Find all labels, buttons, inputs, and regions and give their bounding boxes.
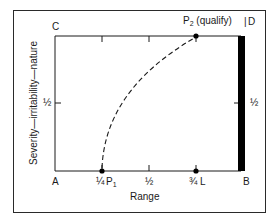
corner-label-a: A <box>52 177 59 187</box>
point-p1-label: P1 <box>106 177 117 190</box>
x-axis-label: Range <box>130 192 159 202</box>
y-tick-right-half: ½ <box>250 98 258 108</box>
x-tick-half: ½ <box>145 177 153 187</box>
dashed-curve <box>102 37 196 168</box>
point-l <box>193 168 198 173</box>
plot-axes <box>55 36 241 171</box>
point-p2 <box>193 33 198 38</box>
diagram-graphic <box>0 0 278 223</box>
p1-name: P <box>106 176 113 187</box>
p2-sub: 2 <box>190 20 194 27</box>
corner-label-d-divider: | <box>244 17 247 27</box>
point-p1 <box>99 168 104 173</box>
x-tick-quarter: ¼ <box>96 177 104 187</box>
p2-note: (qualify) <box>196 15 232 26</box>
point-p2-label: P2 (qualify) <box>183 16 232 29</box>
point-l-label: L <box>200 177 206 187</box>
p1-sub: 1 <box>113 181 117 188</box>
thick-bar-bd <box>238 36 245 171</box>
corner-label-b: B <box>243 177 250 187</box>
y-axis-label: Severity—irritability—nature <box>28 41 39 165</box>
corner-label-d: D <box>248 17 255 27</box>
p2-name: P <box>183 15 190 26</box>
x-tick-three-quarter: ¾ <box>189 177 197 187</box>
y-tick-left-half: ½ <box>43 98 51 108</box>
corner-label-c: C <box>52 22 59 32</box>
